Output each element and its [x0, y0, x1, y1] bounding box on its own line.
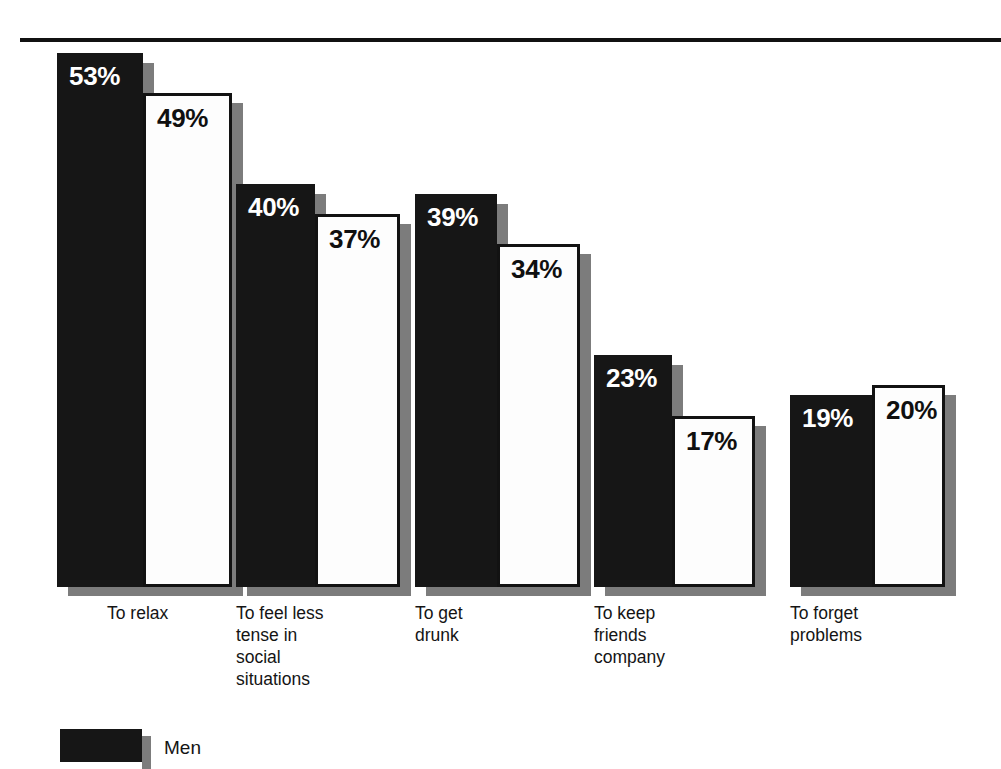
legend-swatch-shadow: [142, 736, 151, 769]
bar-value-label: 23%: [606, 365, 657, 391]
bar-women-3[interactable]: 34%: [497, 244, 580, 587]
bar-women-1[interactable]: 49%: [143, 93, 232, 587]
category-label-3: To get drunk: [415, 602, 463, 646]
bar-drop-shadow: [755, 426, 766, 596]
bar-drop-shadow: [580, 254, 591, 596]
bar-face: [497, 244, 580, 587]
bar-men-1[interactable]: 53%: [57, 53, 143, 587]
legend-swatch-face: [60, 729, 142, 762]
category-label-5: To forget problems: [790, 602, 862, 646]
bar-men-3[interactable]: 39%: [415, 194, 497, 587]
bar-group-base-shadow: [426, 587, 591, 596]
legend-label-men: Men: [164, 738, 201, 757]
category-label-4: To keep friends company: [594, 602, 665, 668]
bar-value-label: 37%: [329, 226, 380, 252]
bar-value-label: 20%: [886, 397, 937, 423]
bar-men-5[interactable]: 19%: [790, 395, 872, 587]
bar-group-base-shadow: [605, 587, 766, 596]
bar-value-label: 53%: [69, 63, 120, 89]
bar-group-base-shadow: [68, 587, 243, 596]
bar-value-label: 40%: [248, 194, 299, 220]
bar-face: [57, 53, 143, 587]
bar-face: [143, 93, 232, 587]
bar-value-label: 39%: [427, 204, 478, 230]
bar-face: [236, 184, 315, 587]
legend-swatch-men: [60, 729, 142, 762]
bar-men-4[interactable]: 23%: [594, 355, 672, 587]
bar-drop-shadow: [400, 224, 411, 596]
bar-value-label: 17%: [686, 428, 737, 454]
bar-value-label: 49%: [157, 105, 208, 131]
bar-women-2[interactable]: 37%: [315, 214, 400, 587]
category-label-2: To feel less tense in social situations: [236, 602, 324, 690]
bar-women-4[interactable]: 17%: [672, 416, 755, 587]
bar-face: [315, 214, 400, 587]
bar-face: [415, 194, 497, 587]
bar-drop-shadow: [945, 395, 956, 596]
bar-value-label: 19%: [802, 405, 853, 431]
bar-women-5[interactable]: 20%: [872, 385, 945, 587]
bar-group-base-shadow: [247, 587, 411, 596]
bar-value-label: 34%: [511, 256, 562, 282]
category-label-1: To relax: [107, 602, 168, 624]
bar-men-2[interactable]: 40%: [236, 184, 315, 587]
